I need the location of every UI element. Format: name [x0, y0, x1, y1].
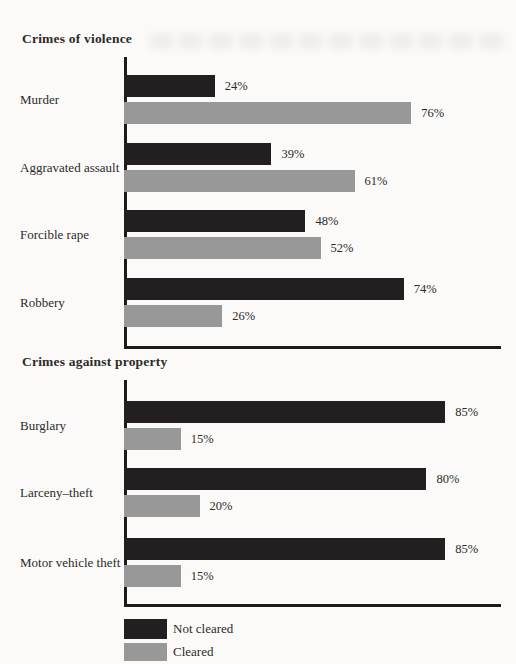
category-label-robbery: Robbery	[20, 295, 123, 310]
legend-swatch-cleared	[124, 643, 167, 661]
value-cleared-robbery: 26%	[232, 309, 255, 323]
bar-not-cleared-burglary	[124, 401, 445, 423]
bar-cleared-larceny-theft	[124, 495, 200, 517]
category-label-larceny-theft: Larceny–theft	[20, 485, 123, 500]
value-cleared-larceny-theft: 20%	[210, 499, 233, 513]
value-cleared-murder: 76%	[421, 106, 444, 120]
bar-not-cleared-aggravated-assault	[124, 143, 271, 165]
value-cleared-aggravated-assault: 61%	[365, 174, 388, 188]
value-not-cleared-aggravated-assault: 39%	[281, 147, 304, 161]
bar-cleared-motor-vehicle-theft	[124, 565, 181, 587]
value-not-cleared-burglary: 85%	[455, 405, 478, 419]
category-label-aggravated-assault: Aggravated assault	[20, 160, 123, 175]
bar-not-cleared-murder	[124, 75, 215, 97]
category-label-murder: Murder	[20, 92, 123, 107]
value-cleared-motor-vehicle-theft: 15%	[191, 569, 214, 583]
bar-cleared-robbery	[124, 305, 222, 327]
category-label-motor-vehicle-theft: Motor vehicle theft	[20, 555, 123, 570]
bar-cleared-burglary	[124, 428, 181, 450]
x-axis-property	[124, 604, 501, 607]
legend-label-cleared: Cleared	[173, 644, 213, 660]
category-label-burglary: Burglary	[20, 418, 123, 433]
value-not-cleared-robbery: 74%	[414, 282, 437, 296]
figure-root: Crimes of violence Murder24%76%Aggravate…	[0, 0, 516, 664]
bar-cleared-forcible-rape	[124, 237, 321, 259]
category-label-forcible-rape: Forcible rape	[20, 227, 123, 242]
bar-cleared-aggravated-assault	[124, 170, 355, 192]
x-axis-violence	[124, 346, 501, 349]
value-not-cleared-forcible-rape: 48%	[315, 214, 338, 228]
value-not-cleared-larceny-theft: 80%	[436, 472, 459, 486]
bar-not-cleared-robbery	[124, 278, 404, 300]
value-cleared-burglary: 15%	[191, 432, 214, 446]
scan-ghosting	[150, 33, 510, 49]
value-not-cleared-motor-vehicle-theft: 85%	[455, 542, 478, 556]
legend-swatch-not-cleared	[124, 619, 167, 639]
value-not-cleared-murder: 24%	[225, 79, 248, 93]
value-cleared-forcible-rape: 52%	[331, 241, 354, 255]
legend-label-not-cleared: Not cleared	[173, 621, 233, 637]
bar-not-cleared-forcible-rape	[124, 210, 305, 232]
bar-cleared-murder	[124, 102, 411, 124]
bar-not-cleared-motor-vehicle-theft	[124, 538, 445, 560]
bar-not-cleared-larceny-theft	[124, 468, 426, 490]
group-title-crimes-of-violence: Crimes of violence	[22, 31, 132, 47]
group-title-crimes-against-property: Crimes against property	[22, 354, 167, 370]
